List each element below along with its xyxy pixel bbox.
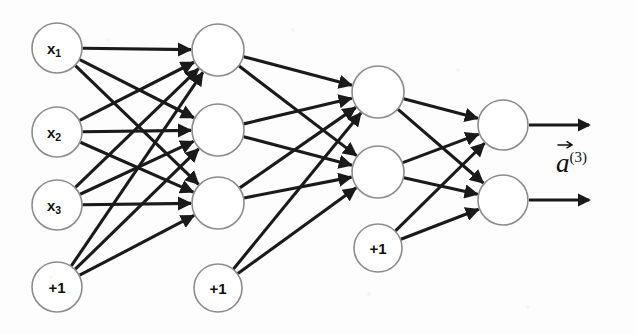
node-n-h13[interactable] — [192, 177, 244, 229]
node-circle-n-h22 — [352, 146, 404, 198]
node-n-h11[interactable] — [192, 24, 244, 76]
node-n-o1[interactable] — [478, 100, 528, 150]
node-subscript-n-x1: 1 — [55, 47, 61, 59]
node-label-n-b1: +1 — [48, 279, 65, 296]
node-label-n-b2: +1 — [209, 280, 226, 297]
node-circle-n-o1 — [478, 100, 528, 150]
connection-n-x1-to-n-h11 — [82, 48, 191, 49]
node-n-h12[interactable] — [192, 104, 244, 156]
node-circle-n-h11 — [192, 24, 244, 76]
connection-n-b2-to-n-h21 — [233, 113, 360, 269]
connection-n-b3-to-n-o1 — [395, 143, 484, 231]
annotation-label-a3: a(3) — [556, 150, 587, 177]
connection-n-h21-to-n-o2 — [398, 109, 483, 183]
node-n-b1[interactable]: +1 — [32, 262, 82, 312]
node-n-b3[interactable]: +1 — [354, 224, 402, 272]
node-n-x2[interactable]: x2 — [32, 107, 82, 157]
node-n-b2[interactable]: +1 — [194, 264, 242, 312]
vector-arrow-icon — [557, 139, 576, 149]
connections-group — [71, 48, 484, 275]
node-n-o2[interactable] — [478, 175, 528, 225]
connection-n-b2-to-n-h22 — [238, 188, 356, 274]
node-n-h21[interactable] — [352, 66, 404, 118]
connection-n-h13-to-n-h22 — [244, 177, 351, 198]
connection-n-h21-to-n-o1 — [404, 99, 478, 119]
node-n-x1[interactable]: x1 — [32, 23, 82, 73]
annotation-base-symbol: a — [556, 148, 570, 178]
node-circle-n-o2 — [478, 175, 528, 225]
connection-n-x2-to-n-h12 — [82, 130, 191, 131]
node-circle-n-h21 — [352, 66, 404, 118]
node-circle-n-h12 — [192, 104, 244, 156]
node-subscript-n-x2: 2 — [55, 131, 61, 143]
neural-network-diagram: x1x2x3+1+1+1 a(3) — [0, 0, 636, 334]
node-circle-n-h13 — [192, 177, 244, 229]
node-subscript-n-x3: 3 — [55, 204, 61, 216]
node-n-h22[interactable] — [352, 146, 404, 198]
node-n-x3[interactable]: x3 — [32, 180, 82, 230]
network-svg: x1x2x3+1+1+1 — [0, 0, 636, 334]
node-label-n-b3: +1 — [369, 240, 386, 257]
annotation-superscript: (3) — [570, 149, 588, 165]
connection-n-b1-to-n-h13 — [80, 215, 194, 275]
connection-n-x3-to-n-h13 — [82, 203, 191, 204]
